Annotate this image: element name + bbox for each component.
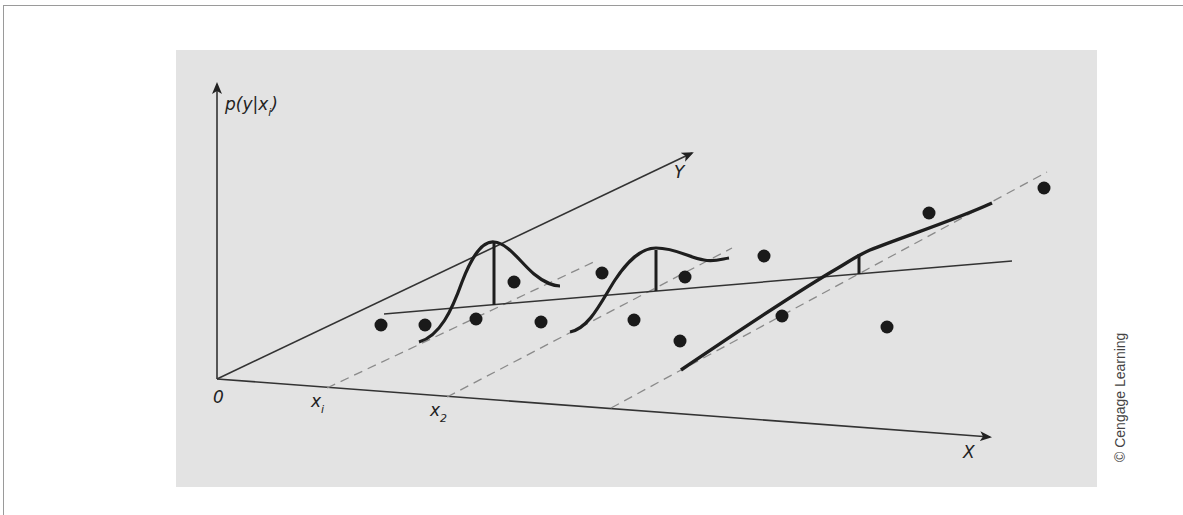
- vertical-axis-label: p(y|xi): [224, 94, 278, 119]
- x-axis: [217, 379, 990, 437]
- y-axis: [217, 153, 692, 379]
- regression-line: [384, 261, 1012, 314]
- origin-label: 0: [213, 387, 224, 407]
- x-tick-xi: xi: [310, 391, 324, 416]
- copyright-credit: © Cengage Learning: [1112, 333, 1128, 462]
- dashed-line-x2: [447, 248, 732, 397]
- data-points: [375, 182, 1051, 348]
- y-axis-label: Y: [674, 162, 686, 182]
- x-axis-label: X: [962, 442, 975, 462]
- density-curve-2: [570, 248, 729, 332]
- x-tick-x2: x2: [429, 400, 447, 425]
